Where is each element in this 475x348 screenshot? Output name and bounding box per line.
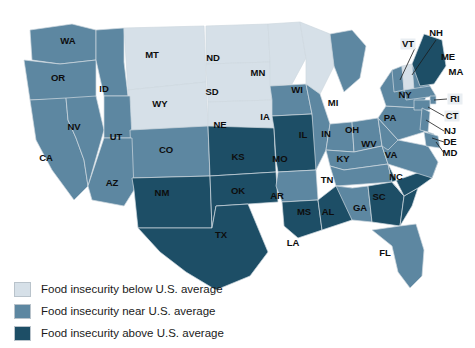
state-label-mn: MN — [251, 67, 266, 78]
state-label-nd: ND — [206, 52, 220, 63]
food-insecurity-choropleth-map: WAORCANVIDMTWYUTCOAZNMNDSDNEKSOKTXMNIAMO… — [0, 0, 475, 348]
state-label-nm: NM — [155, 187, 170, 198]
state-label-wa: WA — [60, 35, 75, 46]
state-label-ny: NY — [398, 89, 412, 100]
state-label-ga: GA — [353, 202, 367, 213]
state-mt — [124, 26, 206, 90]
state-label-al: AL — [322, 206, 335, 217]
state-wy — [128, 82, 208, 130]
state-label-tn: TN — [321, 174, 334, 185]
state-label-nc: NC — [389, 171, 403, 182]
state-mn — [268, 22, 306, 86]
legend-label-above: Food insecurity above U.S. average — [41, 327, 224, 339]
state-label-fl: FL — [379, 247, 391, 258]
state-label-ms: MS — [297, 206, 311, 217]
state-label-ca: CA — [39, 152, 53, 163]
state-label-ma: MA — [449, 66, 464, 77]
legend-swatch-above — [14, 326, 31, 341]
leader-line-ct — [428, 107, 444, 116]
state-ga — [368, 182, 404, 226]
map-legend: Food insecurity below U.S. average Food … — [14, 278, 314, 344]
state-label-va: VA — [385, 149, 398, 160]
state-label-de: DE — [443, 136, 456, 147]
state-label-tx: TX — [215, 229, 228, 240]
state-nm — [132, 176, 212, 228]
state-label-id: ID — [99, 83, 109, 94]
state-label-pa: PA — [384, 112, 397, 123]
state-label-il: IL — [299, 129, 308, 140]
state-nj — [420, 108, 430, 132]
state-label-ky: KY — [336, 153, 350, 164]
legend-item-near: Food insecurity near U.S. average — [14, 300, 314, 322]
state-label-ia: IA — [260, 111, 270, 122]
legend-swatch-below — [14, 282, 31, 297]
state-label-ri: RI — [450, 93, 460, 104]
state-label-ok: OK — [231, 185, 245, 196]
legend-swatch-near — [14, 304, 31, 319]
state-label-in: IN — [321, 128, 331, 139]
state-label-nh: NH — [429, 27, 443, 38]
state-label-az: AZ — [106, 177, 119, 188]
state-label-wi: WI — [291, 84, 303, 95]
state-label-md: MD — [443, 147, 458, 158]
legend-label-near: Food insecurity near U.S. average — [41, 305, 216, 317]
state-label-wv: WV — [361, 138, 377, 149]
us-states-map: WAORCANVIDMTWYUTCOAZNMNDSDNEKSOKTXMNIAMO… — [0, 0, 475, 300]
state-label-sd: SD — [205, 86, 218, 97]
state-label-sc: SC — [372, 191, 385, 202]
state-label-mo: MO — [272, 153, 287, 164]
state-label-vt: VT — [402, 38, 414, 49]
state-label-ct: CT — [446, 110, 459, 121]
legend-item-below: Food insecurity below U.S. average — [14, 278, 314, 300]
state-nh — [402, 64, 414, 90]
state-label-ne: NE — [213, 119, 226, 130]
legend-label-below: Food insecurity below U.S. average — [41, 283, 223, 295]
state-label-or: OR — [51, 72, 65, 83]
state-label-oh: OH — [345, 124, 359, 135]
state-label-ar: AR — [270, 190, 284, 201]
state-label-co: CO — [159, 144, 173, 155]
state-label-nj: NJ — [444, 125, 456, 136]
state-label-me: ME — [441, 51, 455, 62]
legend-item-above: Food insecurity above U.S. average — [14, 322, 314, 344]
state-label-ut: UT — [110, 131, 123, 142]
state-label-wy: WY — [152, 98, 168, 109]
state-label-nv: NV — [67, 121, 81, 132]
state-mi — [330, 30, 366, 92]
state-label-la: LA — [287, 237, 300, 248]
state-label-ks: KS — [231, 151, 244, 162]
state-label-mt: MT — [145, 49, 159, 60]
state-label-mi: MI — [328, 97, 339, 108]
